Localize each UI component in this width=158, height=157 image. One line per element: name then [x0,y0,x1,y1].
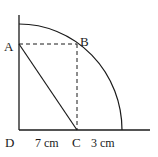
label-dc-length: 7 cm [35,136,59,150]
label-a: A [4,39,14,54]
segment-ac [19,44,77,130]
label-b: B [80,34,89,49]
geometry-diagram: A B D 7 cm C 3 cm [0,0,158,157]
label-c: C [72,135,81,150]
quarter-circle-arc [19,24,122,130]
label-d: D [5,135,14,150]
label-c-arc-length: 3 cm [91,136,115,150]
